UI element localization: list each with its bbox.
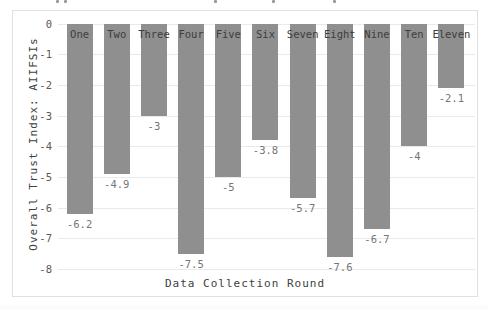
clipped-text-fragment bbox=[56, 0, 59, 3]
gridline bbox=[58, 208, 475, 209]
bottom-margin-strip bbox=[0, 305, 488, 310]
value-label: -5 bbox=[200, 181, 256, 193]
value-label: -3 bbox=[126, 120, 182, 132]
bar-ten bbox=[401, 24, 427, 147]
y-axis-tick-label: -8 bbox=[22, 263, 52, 275]
bar-nine bbox=[364, 24, 390, 230]
y-axis-title: Overall Trust Index: AIIFSIs bbox=[27, 37, 40, 250]
clipped-text-fragment bbox=[333, 0, 336, 3]
y-axis-tick-label: 0 bbox=[22, 18, 52, 30]
bar-two bbox=[104, 24, 130, 174]
category-label: Eleven bbox=[423, 28, 479, 40]
value-label: -7.6 bbox=[312, 261, 368, 273]
x-axis-title: Data Collection Round bbox=[13, 277, 477, 290]
value-label: -7.5 bbox=[163, 258, 219, 270]
bar-chart-panel: 0-1-2-3-4-5-6-7-8 One-6.2Two-4.9Three-3F… bbox=[12, 10, 478, 297]
clipped-text-fragment bbox=[272, 0, 275, 3]
bar-seven bbox=[290, 24, 316, 199]
clipped-text-fragment bbox=[64, 0, 67, 3]
value-label: -6.2 bbox=[52, 218, 108, 230]
value-label: -3.8 bbox=[237, 144, 293, 156]
value-label: -4 bbox=[386, 150, 442, 162]
value-label: -4.9 bbox=[89, 178, 145, 190]
value-label: -5.7 bbox=[275, 202, 331, 214]
screenshot-root: 0-1-2-3-4-5-6-7-8 One-6.2Two-4.9Three-3F… bbox=[0, 0, 488, 310]
bar-four bbox=[178, 24, 204, 254]
value-label: -6.7 bbox=[349, 233, 405, 245]
gridline bbox=[58, 269, 475, 270]
gridline bbox=[58, 238, 475, 239]
bar-six bbox=[252, 24, 278, 141]
bar-eight bbox=[327, 24, 353, 257]
value-label: -2.1 bbox=[423, 92, 479, 104]
clipped-text-fragment bbox=[214, 0, 217, 3]
